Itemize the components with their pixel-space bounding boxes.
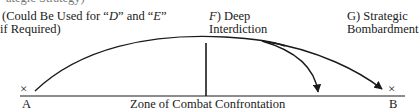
point-a-mark: ×: [20, 82, 27, 95]
point-b-mark: ×: [388, 82, 395, 95]
arrow-deep-interdiction: [262, 41, 318, 92]
zone-label: Zone of Combat Confrontation: [130, 98, 285, 111]
point-a-label: A: [22, 98, 31, 111]
trajectory-arc: [35, 36, 285, 91]
point-b-label: B: [389, 98, 397, 111]
diagram-lines: [0, 0, 419, 112]
